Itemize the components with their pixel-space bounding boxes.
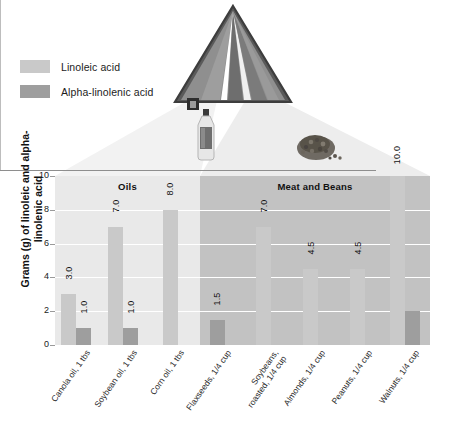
bar-value-label: 4.5 [353,241,363,254]
bar-value-label: 10.0 [392,146,402,164]
x-axis-tick-label: Canola oil, 1 tbs [49,348,92,404]
panel-oils: Oils [55,176,200,345]
bar-chart: Grams (g) of linoleic and alpha-linoleni… [0,0,450,428]
bar [405,311,420,345]
x-axis-tick-label: Walnuts, 1/4 cup [376,348,420,405]
bar: 4.5 [350,269,365,345]
x-axis-tick-label-line: Walnuts, 1/4 cup [376,348,420,405]
y-axis-line [0,0,1,170]
y-axis-tick-label: 2 [25,305,49,315]
x-axis-tick-label: Soybeans,roasted, 1/4 cup [237,348,288,409]
y-axis-tick-label: 4 [25,271,49,281]
bar: 8.0 [163,210,178,345]
y-axis-tick-label: 10 [25,170,49,180]
bar: 1.0 [123,328,138,345]
x-axis-tick-label: Flaxseeds, 1/4 cup [184,348,233,412]
bar-value-label: 3.0 [64,267,74,280]
x-axis-tick-label-line: Corn oil, 1 tbs [148,348,186,397]
bar-value-label: 1.0 [79,301,89,314]
bar: 1.0 [76,328,91,345]
x-axis-tick-label: Peanuts, 1/4 cup [329,348,374,406]
y-axis-tick-label: 6 [25,238,49,248]
x-axis-tick-label-line: Almonds, 1/4 cup [281,348,327,408]
x-axis-tick-label: Soybean oil, 1 tbs [93,348,140,409]
bar: 3.0 [61,294,76,345]
chart-figure: Linoleic acid Alpha-linolenic acid Grams… [0,0,450,428]
bar: 7.0 [108,227,123,345]
bar-value-label: 7.0 [111,199,121,212]
bar-value-label: 1.5 [212,292,222,305]
y-axis-tick-label: 0 [25,339,49,349]
bar-value-label: 4.5 [306,241,316,254]
y-axis-tick-mark [50,345,55,346]
bar: 10.0 [390,176,405,345]
x-axis-tick-label-line: Canola oil, 1 tbs [49,348,92,404]
bar-value-label: 1.0 [126,301,136,314]
bar: 7.0 [256,227,271,345]
x-axis-tick-label-line: Peanuts, 1/4 cup [329,348,374,406]
x-axis-tick-label: Corn oil, 1 tbs [148,348,186,397]
plot-area: Oils Meat and Beans 3.01.07.01.08.01.57.… [55,176,430,345]
bar: 1.5 [210,320,225,345]
x-axis-tick-label-line: Soybean oil, 1 tbs [93,348,140,409]
x-axis-tick-label-line: Flaxseeds, 1/4 cup [184,348,233,412]
panel-title-oils: Oils [55,181,200,192]
bar-value-label: 7.0 [259,199,269,212]
y-axis-tick-label: 8 [25,204,49,214]
x-axis-line [0,170,376,171]
bar: 4.5 [303,269,318,345]
x-axis-tick-label: Almonds, 1/4 cup [281,348,327,408]
bar-value-label: 8.0 [165,182,175,195]
